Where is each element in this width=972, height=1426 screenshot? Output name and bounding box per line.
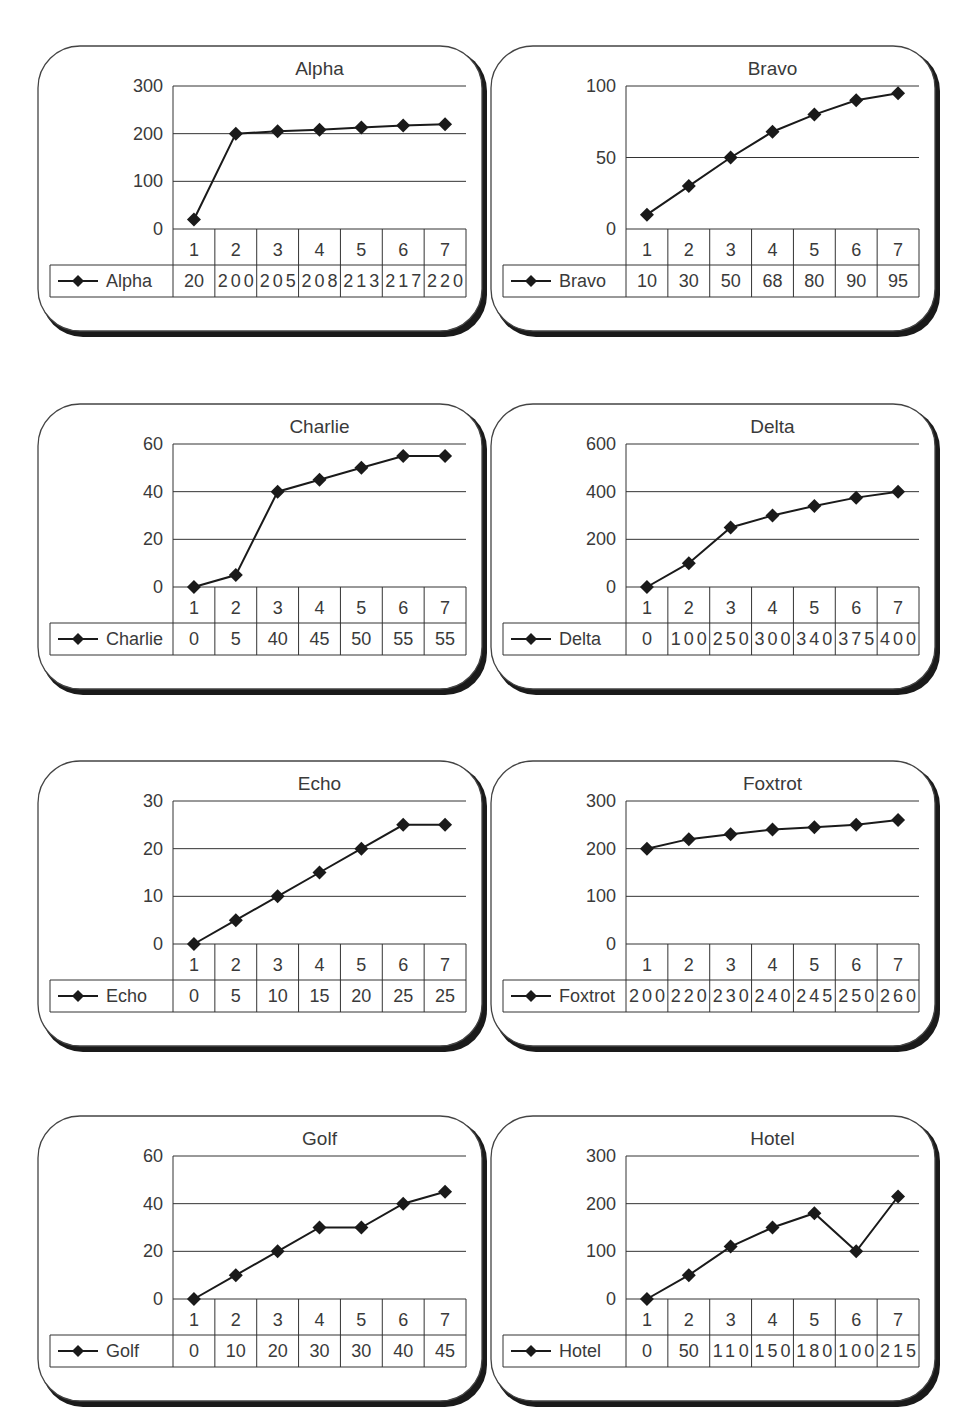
x-category-label: 5 (809, 955, 819, 975)
table-value-cell: 205 (260, 271, 296, 291)
legend-series-label: Echo (106, 986, 147, 1006)
x-category-label: 6 (851, 598, 861, 618)
table-value-cell: 5 (231, 986, 241, 1006)
table-value-cell: 20 (351, 986, 371, 1006)
chart-panel-delta: Delta02004006001234567Delta0100250300340… (490, 403, 938, 693)
table-value-cell: 100 (838, 1341, 874, 1361)
x-category-label: 7 (440, 598, 450, 618)
chart-svg: Delta02004006001234567Delta0100250300340… (490, 403, 948, 703)
table-value-cell: 250 (713, 629, 749, 649)
x-category-label: 3 (726, 240, 736, 260)
chart-panel-echo: Echo01020301234567Echo051015202525 (37, 760, 485, 1050)
legend-series-label: Foxtrot (559, 986, 615, 1006)
y-tick-label: 100 (133, 171, 163, 191)
y-tick-label: 100 (586, 1241, 616, 1261)
chart-title: Charlie (289, 416, 349, 437)
y-tick-label: 60 (143, 434, 163, 454)
y-tick-label: 40 (143, 482, 163, 502)
x-category-label: 6 (851, 240, 861, 260)
table-value-cell: 30 (309, 1341, 329, 1361)
x-category-label: 6 (398, 955, 408, 975)
y-tick-label: 200 (133, 124, 163, 144)
table-value-cell: 20 (184, 271, 204, 291)
x-category-label: 6 (851, 1310, 861, 1330)
table-value-cell: 200 (218, 271, 254, 291)
table-value-cell: 340 (796, 629, 832, 649)
x-category-label: 2 (684, 1310, 694, 1330)
y-tick-label: 300 (133, 76, 163, 96)
x-category-label: 3 (726, 598, 736, 618)
chart-title: Foxtrot (743, 773, 803, 794)
legend-series-label: Golf (106, 1341, 140, 1361)
x-category-label: 7 (440, 1310, 450, 1330)
table-value-cell: 55 (393, 629, 413, 649)
x-category-label: 1 (189, 955, 199, 975)
x-category-label: 7 (893, 240, 903, 260)
panel-frame (38, 404, 482, 689)
table-value-cell: 30 (351, 1341, 371, 1361)
table-value-cell: 50 (721, 271, 741, 291)
y-tick-label: 0 (153, 934, 163, 954)
x-category-label: 1 (189, 598, 199, 618)
x-category-label: 1 (189, 240, 199, 260)
y-tick-label: 400 (586, 482, 616, 502)
x-category-label: 4 (314, 598, 324, 618)
x-category-label: 4 (767, 598, 777, 618)
chart-title: Bravo (748, 58, 798, 79)
table-value-cell: 20 (268, 1341, 288, 1361)
x-category-label: 7 (440, 955, 450, 975)
table-value-cell: 95 (888, 271, 908, 291)
x-category-label: 6 (398, 1310, 408, 1330)
x-category-label: 3 (726, 955, 736, 975)
table-value-cell: 240 (755, 986, 791, 1006)
y-tick-label: 0 (153, 1289, 163, 1309)
chart-svg: Foxtrot01002003001234567Foxtrot200220230… (490, 760, 948, 1060)
panel-frame (38, 1116, 482, 1401)
legend-series-label: Bravo (559, 271, 606, 291)
y-tick-label: 0 (606, 1289, 616, 1309)
x-category-label: 4 (767, 240, 777, 260)
table-value-cell: 200 (629, 986, 665, 1006)
y-tick-label: 60 (143, 1146, 163, 1166)
x-category-label: 2 (231, 1310, 241, 1330)
y-tick-label: 200 (586, 839, 616, 859)
table-value-cell: 50 (679, 1341, 699, 1361)
x-category-label: 4 (314, 1310, 324, 1330)
x-category-label: 2 (231, 240, 241, 260)
table-value-cell: 40 (268, 629, 288, 649)
chart-svg: Golf02040601234567Golf0102030304045 (37, 1115, 495, 1415)
table-value-cell: 0 (189, 629, 199, 649)
y-tick-label: 20 (143, 839, 163, 859)
x-category-label: 4 (767, 955, 777, 975)
table-value-cell: 15 (309, 986, 329, 1006)
x-category-label: 5 (356, 1310, 366, 1330)
y-tick-label: 100 (586, 76, 616, 96)
y-tick-label: 50 (596, 148, 616, 168)
table-value-cell: 25 (393, 986, 413, 1006)
table-value-cell: 40 (393, 1341, 413, 1361)
x-category-label: 2 (684, 598, 694, 618)
chart-svg: Charlie02040601234567Charlie054045505555 (37, 403, 495, 703)
table-value-cell: 220 (427, 271, 463, 291)
chart-svg: Echo01020301234567Echo051015202525 (37, 760, 495, 1060)
x-category-label: 2 (231, 955, 241, 975)
table-value-cell: 80 (804, 271, 824, 291)
y-tick-label: 0 (606, 577, 616, 597)
table-value-cell: 5 (231, 629, 241, 649)
table-value-cell: 260 (880, 986, 916, 1006)
table-value-cell: 220 (671, 986, 707, 1006)
y-tick-label: 0 (153, 219, 163, 239)
y-tick-label: 10 (143, 886, 163, 906)
chart-title: Delta (750, 416, 795, 437)
x-category-label: 6 (398, 240, 408, 260)
x-category-label: 3 (273, 240, 283, 260)
chart-svg: Bravo0501001234567Bravo10305068809095 (490, 45, 948, 345)
x-category-label: 3 (273, 955, 283, 975)
table-value-cell: 68 (762, 271, 782, 291)
table-value-cell: 0 (189, 1341, 199, 1361)
x-category-label: 5 (809, 240, 819, 260)
x-category-label: 5 (356, 598, 366, 618)
x-category-label: 5 (356, 955, 366, 975)
table-value-cell: 0 (189, 986, 199, 1006)
table-value-cell: 110 (713, 1341, 749, 1361)
